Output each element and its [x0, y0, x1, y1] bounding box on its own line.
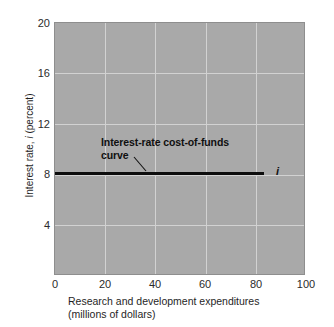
y-axis-title: Interest rate, i (percent) — [24, 56, 35, 236]
gridline-vertical-80 — [256, 23, 257, 274]
x-axis-ticks: 0 20 40 60 80 100 — [0, 279, 334, 295]
x-tick-80: 80 — [236, 279, 276, 290]
x-axis-title: Research and development expenditures (m… — [68, 295, 318, 321]
interest-rate-cost-of-funds-curve — [55, 172, 264, 175]
gridline-horizontal-8 — [55, 175, 304, 176]
chart-figure: i Interest-rate cost-of-funds curve 20 1… — [0, 0, 334, 327]
x-tick-100: 100 — [286, 279, 326, 290]
curve-annotation: Interest-rate cost-of-funds curve — [101, 136, 231, 161]
x-tick-40: 40 — [135, 279, 175, 290]
x-tick-0: 0 — [35, 279, 75, 290]
x-axis-title-line1: Research and development expenditures — [68, 295, 318, 308]
gridline-horizontal-4 — [55, 225, 304, 226]
x-tick-20: 20 — [85, 279, 125, 290]
y-axis-title-suffix: (percent) — [24, 94, 35, 137]
x-axis-title-line2: (millions of dollars) — [68, 308, 318, 321]
series-label-i: i — [276, 166, 279, 177]
y-tick-20: 20 — [4, 18, 50, 29]
gridline-horizontal-12 — [55, 124, 304, 125]
y-axis-title-prefix: Interest rate, — [24, 139, 35, 198]
y-axis-title-symbol: i — [24, 136, 35, 138]
gridline-horizontal-16 — [55, 73, 304, 74]
curve-annotation-line1: Interest-rate cost-of-funds — [101, 136, 231, 149]
curve-annotation-line2: curve — [101, 149, 231, 162]
x-tick-60: 60 — [185, 279, 225, 290]
